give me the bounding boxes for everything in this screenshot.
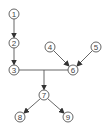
node-2: 2: [9, 38, 19, 48]
node-label: 6: [71, 66, 76, 75]
node-8: 8: [15, 112, 25, 122]
node-5: 5: [91, 42, 101, 52]
edge-7-to-9: [48, 99, 65, 114]
directed-graph-diagram: 1 2 3 4 5 6 7 8: [0, 0, 110, 130]
edges: [14, 19, 93, 113]
node-1: 1: [9, 9, 19, 19]
edge-4-to-6: [54, 51, 70, 67]
node-label: 7: [42, 91, 47, 100]
node-label: 9: [66, 113, 71, 122]
node-7: 7: [39, 90, 49, 100]
node-6: 6: [68, 65, 78, 75]
node-label: 2: [12, 39, 17, 48]
node-label: 1: [12, 10, 17, 19]
node-3: 3: [9, 65, 19, 75]
edge-5-to-6: [77, 51, 93, 67]
node-label: 8: [18, 113, 23, 122]
node-label: 4: [48, 43, 53, 52]
edge-7-to-8: [24, 99, 41, 114]
node-4: 4: [45, 42, 55, 52]
node-9: 9: [63, 112, 73, 122]
node-label: 3: [12, 66, 17, 75]
node-label: 5: [94, 43, 99, 52]
